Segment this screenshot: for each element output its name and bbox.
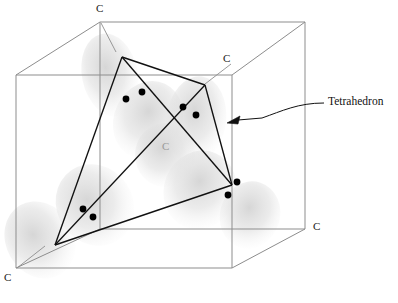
electron-dot	[225, 192, 232, 199]
electron-dot	[234, 179, 241, 186]
tetrahedron-in-cube-figure	[0, 0, 398, 303]
electron-dot	[139, 89, 146, 96]
carbon-label-upper-right: C	[223, 53, 230, 64]
electron-dot	[180, 104, 187, 111]
electron-dot	[123, 96, 130, 103]
tetrahedron-annotation-label: Tetrahedron	[328, 96, 383, 108]
carbon-label-bottom-left: C	[4, 272, 11, 283]
electron-dot	[80, 206, 87, 213]
carbon-label-center: C	[162, 141, 169, 152]
carbon-label-bottom-right: C	[313, 221, 320, 232]
carbon-label-top: C	[96, 3, 103, 14]
electron-dot	[193, 112, 200, 119]
electron-dot	[90, 214, 97, 221]
